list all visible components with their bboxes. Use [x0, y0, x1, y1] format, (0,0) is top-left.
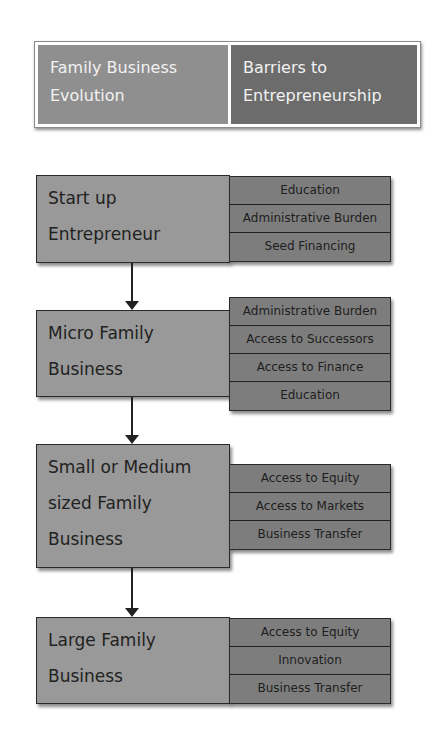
barrier-item: Innovation	[230, 647, 390, 675]
arrow-connector	[131, 568, 133, 610]
barrier-item: Education	[230, 177, 390, 205]
barrier-item: Access to Successors	[230, 326, 390, 354]
header-left-line-2: Evolution	[50, 82, 228, 110]
stage-title-line: Business	[48, 351, 229, 387]
barriers-large: Access to Equity Innovation Business Tra…	[229, 618, 391, 704]
stage-title-line: Start up	[48, 180, 229, 216]
barrier-item: Access to Equity	[230, 465, 390, 493]
header-left-line-1: Family Business	[50, 54, 228, 82]
header-family-business-evolution: Family Business Evolution	[38, 45, 228, 124]
barrier-item: Education	[230, 382, 390, 410]
arrow-down-icon	[125, 301, 139, 310]
stage-title-line: sized Family	[48, 485, 229, 521]
barrier-item: Access to Finance	[230, 354, 390, 382]
header-barriers-to-entrepreneurship: Barriers to Entrepreneurship	[231, 45, 417, 124]
barrier-item: Access to Markets	[230, 493, 390, 521]
arrow-connector	[131, 263, 133, 302]
stage-title-line: Micro Family	[48, 315, 229, 351]
stage-title-line: Small or Medium	[48, 449, 229, 485]
header-right-line-2: Entrepreneurship	[243, 82, 417, 110]
stage-sme-family-business: Small or Medium sized Family Business	[36, 444, 230, 568]
barriers-sme: Access to Equity Access to Markets Busin…	[229, 464, 391, 550]
header-right-line-1: Barriers to	[243, 54, 417, 82]
barrier-item: Seed Financing	[230, 233, 390, 261]
barrier-item: Administrative Burden	[230, 298, 390, 326]
barriers-micro: Administrative Burden Access to Successo…	[229, 297, 391, 411]
barrier-item: Access to Equity	[230, 619, 390, 647]
stage-title-line: Business	[48, 521, 229, 557]
stage-startup-entrepreneur: Start up Entrepreneur	[36, 175, 230, 263]
barrier-item: Administrative Burden	[230, 205, 390, 233]
diagram-header: Family Business Evolution Barriers to En…	[34, 41, 421, 128]
barrier-item: Business Transfer	[230, 675, 390, 703]
stage-title-line: Large Family	[48, 622, 229, 658]
arrow-down-icon	[125, 435, 139, 444]
barrier-item: Business Transfer	[230, 521, 390, 549]
stage-micro-family-business: Micro Family Business	[36, 310, 230, 397]
stage-title-line: Business	[48, 658, 229, 694]
stage-large-family-business: Large Family Business	[36, 617, 230, 704]
arrow-connector	[131, 397, 133, 436]
barriers-startup: Education Administrative Burden Seed Fin…	[229, 176, 391, 262]
stage-title-line: Entrepreneur	[48, 216, 229, 252]
arrow-down-icon	[125, 608, 139, 617]
